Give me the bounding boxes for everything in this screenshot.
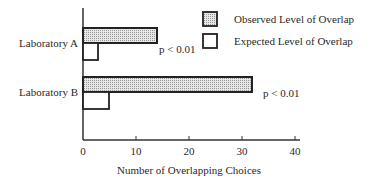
legend-swatch-observed bbox=[203, 12, 217, 26]
category-label-lab-a: Laboratory A bbox=[19, 37, 78, 49]
tick-label-40: 40 bbox=[290, 145, 302, 157]
bar-expected-lab-b bbox=[83, 92, 109, 109]
p-value-lab-a: p < 0.01 bbox=[159, 43, 195, 55]
legend: Observed Level of Overlap Expected Level… bbox=[203, 12, 355, 48]
bar-observed-lab-a bbox=[83, 28, 157, 43]
bar-expected-lab-a bbox=[83, 43, 98, 60]
tick-label-0: 0 bbox=[80, 145, 86, 157]
tick-label-30: 30 bbox=[237, 145, 249, 157]
tick-label-10: 10 bbox=[131, 145, 143, 157]
bar-observed-lab-b bbox=[83, 77, 252, 92]
chart: 0 10 20 30 40 Number of Overlapping Choi… bbox=[0, 0, 370, 183]
legend-swatch-expected bbox=[203, 34, 217, 48]
category-label-lab-b: Laboratory B bbox=[19, 86, 78, 98]
tick-label-20: 20 bbox=[184, 145, 196, 157]
legend-label-observed: Observed Level of Overlap bbox=[234, 13, 355, 25]
x-axis-label: Number of Overlapping Choices bbox=[117, 164, 261, 176]
p-value-lab-b: p < 0.01 bbox=[263, 87, 299, 99]
legend-label-expected: Expected Level of Overlap bbox=[234, 35, 353, 47]
